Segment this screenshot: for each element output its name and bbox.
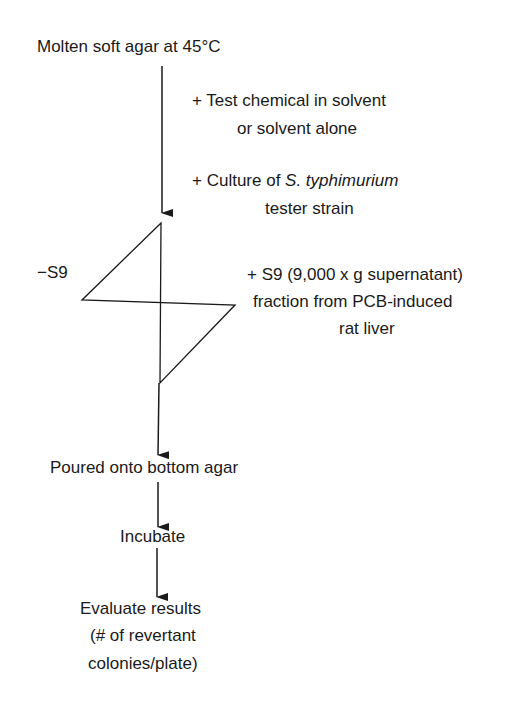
- start-node: Molten soft agar at 45°C: [37, 37, 221, 57]
- arrow-to-pour: [158, 383, 159, 455]
- step-evaluate: Evaluate results: [80, 599, 201, 619]
- addition-test-chemical-line2: or solvent alone: [237, 119, 357, 139]
- decision-diamond: [82, 223, 235, 383]
- step-pour: Poured onto bottom agar: [50, 458, 238, 478]
- branch-plus-s9-line3: rat liver: [339, 319, 395, 339]
- organism-name: S. typhimurium: [285, 171, 398, 190]
- branch-plus-s9-line2: fraction from PCB-induced: [253, 292, 452, 312]
- addition-test-chemical: + Test chemical in solvent: [192, 91, 386, 111]
- step-evaluate-line3: colonies/plate): [88, 654, 198, 674]
- branch-plus-s9: + S9 (9,000 x g supernatant): [247, 265, 463, 285]
- addition-culture-prefix: + Culture of: [192, 171, 285, 190]
- addition-culture: + Culture of S. typhimurium: [192, 171, 398, 191]
- branch-minus-s9: −S9: [37, 263, 68, 283]
- addition-culture-line2: tester strain: [265, 199, 354, 219]
- step-incubate: Incubate: [120, 527, 185, 547]
- step-evaluate-line2: (# of revertant: [90, 626, 196, 646]
